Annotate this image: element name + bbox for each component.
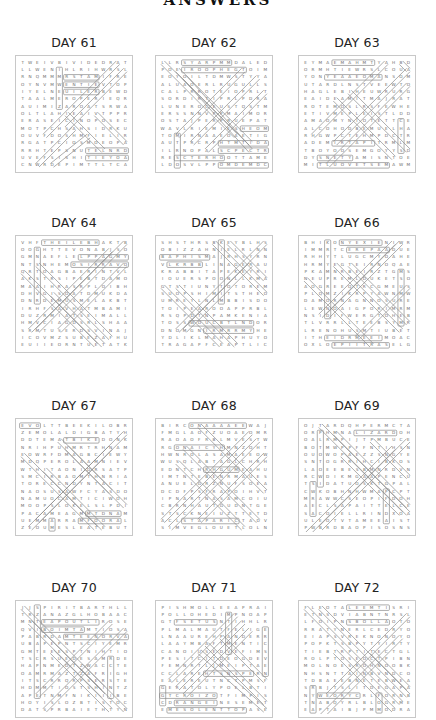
- grid-letter: G: [34, 246, 41, 253]
- grid-letter: A: [225, 342, 232, 349]
- grid-letter: A: [225, 495, 232, 502]
- grid-letter: C: [92, 451, 99, 458]
- grid-letter: M: [254, 154, 261, 161]
- grid-letter: B: [405, 692, 412, 699]
- grid-letter: T: [78, 619, 85, 626]
- grid-letter: A: [368, 473, 375, 480]
- grid-letter: C: [63, 118, 70, 125]
- grid-letter: T: [331, 66, 338, 73]
- puzzle-heading: DAY 67: [15, 398, 133, 413]
- grid-letter: K: [85, 437, 92, 444]
- grid-letter: E: [375, 517, 382, 524]
- grid-letter: N: [107, 147, 114, 154]
- grid-letter: A: [114, 320, 121, 327]
- grid-letter: R: [56, 707, 63, 714]
- grid-letter: M: [78, 510, 85, 517]
- grid-letter: S: [203, 648, 210, 655]
- grid-letter: C: [56, 481, 63, 488]
- grid-letter: D: [181, 96, 188, 103]
- grid-letter: B: [78, 334, 85, 341]
- grid-letter: E: [122, 655, 129, 662]
- grid-letter: T: [196, 619, 203, 626]
- grid-letter: C: [56, 495, 63, 502]
- grid-letter: W: [34, 162, 41, 169]
- grid-letter: X: [309, 342, 316, 349]
- grid-letter: F: [159, 663, 166, 670]
- grid-letter: U: [346, 481, 353, 488]
- grid-letter: K: [85, 692, 92, 699]
- grid-letter: N: [100, 459, 107, 466]
- grid-letter: O: [196, 685, 203, 692]
- grid-letter: O: [181, 74, 188, 81]
- grid-letter: O: [302, 429, 309, 436]
- grid-letter: O: [390, 66, 397, 73]
- grid-letter: R: [122, 96, 129, 103]
- grid-letter: I: [166, 604, 173, 611]
- grid-letter: R: [196, 239, 203, 246]
- grid-letter: L: [302, 327, 309, 334]
- grid-letter: D: [405, 147, 412, 154]
- grid-letter: L: [361, 626, 368, 633]
- grid-letter: I: [405, 604, 412, 611]
- grid-letter: I: [181, 655, 188, 662]
- grid-letter: T: [339, 481, 346, 488]
- grid-letter: O: [63, 699, 70, 706]
- grid-letter: S: [240, 254, 247, 261]
- grid-letter: A: [41, 611, 48, 618]
- grid-letter: E: [107, 96, 114, 103]
- grid-letter: H: [48, 261, 55, 268]
- grid-letter: E: [339, 677, 346, 684]
- grid-letter: L: [390, 125, 397, 132]
- grid-letter: R: [100, 261, 107, 268]
- grid-letter: A: [85, 604, 92, 611]
- grid-letter: P: [92, 254, 99, 261]
- grid-letter: P: [240, 88, 247, 95]
- grid-letter: L: [159, 633, 166, 640]
- grid-letter: R: [107, 125, 114, 132]
- grid-letter: E: [92, 81, 99, 88]
- grid-letter: M: [92, 290, 99, 297]
- grid-letter: M: [48, 525, 55, 532]
- grid-letter: E: [48, 298, 55, 305]
- grid-letter: B: [309, 147, 316, 154]
- grid-letter: M: [254, 648, 261, 655]
- grid-letter: T: [34, 648, 41, 655]
- grid-letter: B: [324, 699, 331, 706]
- grid-letter: P: [240, 707, 247, 714]
- grid-letter: D: [254, 517, 261, 524]
- grid-letter: M: [63, 633, 70, 640]
- grid-letter: T: [107, 81, 114, 88]
- grid-letter: R: [188, 677, 195, 684]
- grid-letter: S: [346, 103, 353, 110]
- grid-letter: T: [203, 74, 210, 81]
- grid-letter: A: [339, 604, 346, 611]
- grid-letter: F: [159, 429, 166, 436]
- grid-letter: I: [92, 132, 99, 139]
- grid-letter: S: [159, 96, 166, 103]
- grid-letter: L: [174, 677, 181, 684]
- grid-letter: D: [19, 437, 26, 444]
- grid-letter: R: [181, 261, 188, 268]
- grid-letter: E: [375, 239, 382, 246]
- grid-letter: G: [232, 261, 239, 268]
- grid-letter: A: [339, 503, 346, 510]
- grid-letter: I: [317, 312, 324, 319]
- grid-letter: M: [174, 132, 181, 139]
- grid-letter: I: [302, 334, 309, 341]
- grid-letter: E: [232, 626, 239, 633]
- grid-letter: E: [368, 334, 375, 341]
- grid-letter: T: [375, 481, 382, 488]
- grid-letter: O: [317, 466, 324, 473]
- grid-letter: T: [368, 677, 375, 684]
- grid-letter: A: [375, 96, 382, 103]
- grid-letter: S: [346, 619, 353, 626]
- grid-letter: S: [405, 525, 412, 532]
- grid-letter: I: [339, 66, 346, 73]
- grid-letter: Y: [368, 290, 375, 297]
- grid-letter: D: [240, 633, 247, 640]
- grid-letter: P: [346, 110, 353, 117]
- grid-letter: T: [324, 626, 331, 633]
- grid-letter: W: [324, 451, 331, 458]
- grid-letter: C: [114, 162, 121, 169]
- grid-letter: P: [383, 488, 390, 495]
